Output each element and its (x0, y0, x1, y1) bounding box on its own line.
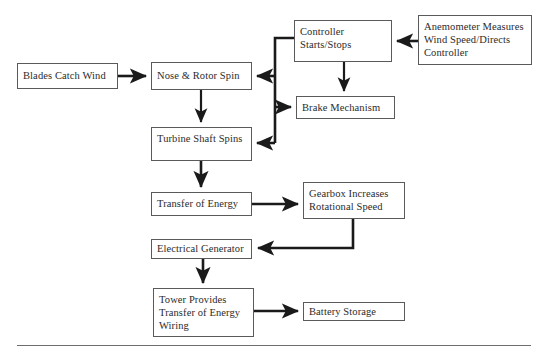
node-transfer-of-energy[interactable]: Transfer of Energy (151, 192, 252, 216)
node-controller-starts-stops[interactable]: Controller Starts/Stops (294, 20, 392, 62)
flowchart-page: Blades Catch Wind Nose & Rotor Spin Cont… (0, 0, 548, 360)
node-gearbox-increases-rotational-speed[interactable]: Gearbox Increases Rotational Speed (303, 182, 405, 219)
node-blades-catch-wind[interactable]: Blades Catch Wind (17, 63, 118, 89)
edge-controller-trunk (275, 38, 294, 143)
footer-divider (17, 345, 531, 346)
node-anemometer-measures[interactable]: Anemometer Measures Wind Speed/Directs C… (418, 15, 532, 65)
node-brake-mechanism[interactable]: Brake Mechanism (296, 96, 395, 119)
node-turbine-shaft-spins[interactable]: Turbine Shaft Spins (151, 127, 252, 161)
node-tower-provides-transfer-of-energy-wiring[interactable]: Tower Provides Transfer of Energy Wiring (153, 288, 254, 337)
edge-gearbox-to-generator (258, 219, 353, 248)
node-electrical-generator[interactable]: Electrical Generator (151, 239, 252, 259)
node-battery-storage[interactable]: Battery Storage (303, 302, 405, 321)
node-nose-and-rotor-spin[interactable]: Nose & Rotor Spin (151, 62, 252, 90)
